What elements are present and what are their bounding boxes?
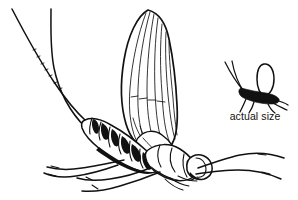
midleg-tarsus-a — [92, 185, 98, 189]
cercus-upper — [12, 9, 86, 121]
cercus-lower — [51, 9, 86, 128]
actual-size-silhouette-group — [225, 61, 288, 113]
illustration-canvas — [0, 0, 298, 200]
midleg-left — [82, 172, 160, 191]
mayfly-figure: actual size — [0, 0, 298, 200]
actual-size-caption: actual size — [216, 110, 294, 122]
tail-filaments-group — [12, 9, 86, 128]
mini-leg-4 — [273, 103, 287, 110]
mini-wing — [257, 64, 274, 95]
